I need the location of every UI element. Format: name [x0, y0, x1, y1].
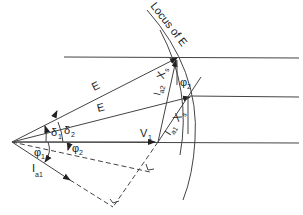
svg-text:Locus of E: Locus of E — [148, 0, 189, 48]
svg-text:2: 2 — [71, 131, 75, 138]
phi1-label: φ 1 — [34, 146, 45, 160]
svg-text:a2: a2 — [158, 85, 167, 94]
phasor-diagram: Locus of E E E V 1 I a2 X s φ 2 I a1 X s… — [0, 0, 303, 215]
svg-text:2: 2 — [79, 149, 83, 156]
v1-label: V 1 — [140, 127, 152, 141]
delta2-arc-top — [54, 111, 57, 117]
phi1-dashed-line — [70, 180, 113, 207]
phi2-lower-label: φ 2 — [72, 142, 83, 156]
right-angle-marker-upper — [146, 164, 154, 170]
svg-text:δ: δ — [64, 124, 70, 136]
svg-text:1: 1 — [148, 134, 152, 141]
svg-text:δ: δ — [51, 126, 57, 138]
svg-text:1: 1 — [41, 153, 45, 160]
svg-text:1: 1 — [58, 133, 62, 140]
phi2-arc — [68, 142, 69, 150]
ia1-arrow-label: I a1 — [32, 162, 43, 178]
svg-text:V: V — [140, 127, 148, 139]
phi1-arc — [45, 142, 49, 162]
horizontal-line-middle — [190, 96, 299, 97]
right-angle-marker-lower — [110, 199, 119, 203]
perpendicular-dashed-line — [113, 142, 158, 207]
phi2-upper-label: φ 2 — [180, 76, 191, 90]
e-phasor-upper — [12, 58, 177, 142]
e-lower-label: E — [96, 101, 106, 114]
svg-text:a1: a1 — [35, 171, 43, 178]
e-upper-label: E — [89, 79, 101, 93]
locus-of-e-label: Locus of E — [148, 0, 189, 48]
svg-text:2: 2 — [187, 83, 191, 90]
svg-text:s: s — [163, 67, 171, 72]
horizontal-line-top — [64, 57, 299, 58]
ia1-xs-label: I a1 X s — [162, 107, 189, 138]
